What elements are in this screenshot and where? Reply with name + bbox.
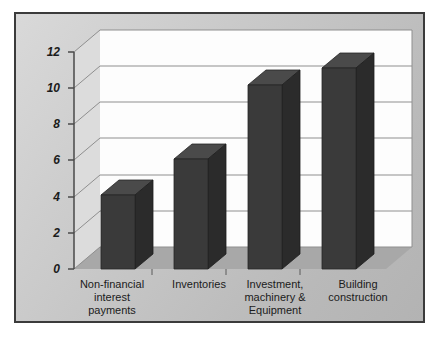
bar-side-face xyxy=(135,180,153,269)
bar-investment-machinery-equipment[interactable] xyxy=(248,70,300,269)
x-axis-ticks xyxy=(152,269,300,275)
bar-inventories[interactable] xyxy=(174,144,226,269)
bar-building-construction[interactable] xyxy=(322,53,374,269)
chart-frame: 12 10 8 6 4 2 0 Non-financial interest p… xyxy=(14,12,425,323)
y-tick-label-8: 8 xyxy=(34,117,60,131)
figure-canvas: 12 10 8 6 4 2 0 Non-financial interest p… xyxy=(0,0,441,345)
y-tick-label-6: 6 xyxy=(34,153,60,167)
x-category-label-non-financial-interest-payments: Non-financial interest payments xyxy=(64,278,160,317)
bar-front-face xyxy=(174,159,208,269)
y-tick-label-0: 0 xyxy=(34,262,60,276)
bar-side-face xyxy=(282,70,300,269)
bar-non-financial-interest-payments[interactable] xyxy=(101,180,153,269)
bar-front-face xyxy=(248,85,282,269)
y-tick-label-12: 12 xyxy=(34,45,60,59)
chart-plot-area xyxy=(16,14,425,323)
y-tick-label-10: 10 xyxy=(34,81,60,95)
x-category-label-investment-machinery-equipment: Investment, machinery & Equipment xyxy=(230,278,320,317)
bar-front-face xyxy=(101,195,135,269)
bar-front-face xyxy=(322,68,356,269)
y-tick-label-2: 2 xyxy=(34,226,60,240)
bar-side-face xyxy=(356,53,374,269)
y-axis-ticks xyxy=(68,52,74,269)
y-tick-label-4: 4 xyxy=(34,190,60,204)
x-category-label-building-construction: Building construction xyxy=(314,278,402,304)
bar-side-face xyxy=(208,144,226,269)
